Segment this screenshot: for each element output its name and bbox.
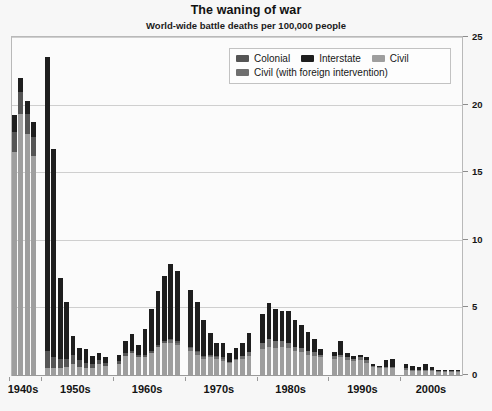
bar-segment-interstate — [312, 339, 317, 353]
y-tick-mark — [463, 104, 468, 105]
bar-1963 — [136, 345, 141, 375]
bar-1959 — [103, 357, 108, 375]
bar-1952 — [58, 278, 63, 375]
bar-1949 — [31, 122, 36, 375]
y-tick-mark — [463, 36, 468, 37]
bar-1967 — [162, 276, 167, 375]
bar-2002 — [417, 367, 422, 375]
legend-row: ColonialInterstateCivil — [236, 53, 444, 64]
bar-1957 — [90, 356, 95, 375]
bar-segment-interstate — [123, 341, 128, 353]
bar-segment-civil — [175, 345, 180, 375]
bar-1955 — [77, 348, 82, 375]
bar-segment-civil — [306, 355, 311, 375]
bar-segment-civil — [156, 347, 161, 375]
y-axis: 0510152025 — [463, 36, 492, 376]
bar-segment-interstate — [168, 264, 173, 338]
bar-segment-interstate — [247, 333, 252, 352]
bar-1978 — [240, 343, 245, 375]
bar-1961 — [123, 341, 128, 375]
y-tick-mark — [463, 374, 468, 375]
bar-segment-civil — [143, 357, 148, 375]
bar-segment-interstate — [31, 122, 36, 137]
bar-segment-colonial — [51, 357, 56, 368]
bar-1964 — [143, 329, 148, 375]
y-tick-label: 10 — [472, 234, 483, 245]
bar-segment-interstate — [208, 333, 213, 355]
bar-1993 — [351, 356, 356, 375]
y-tick-label: 5 — [472, 301, 477, 312]
bar-segment-interstate — [143, 329, 148, 355]
bar-segment-interstate — [64, 302, 69, 359]
chart-subtitle: World-wide battle deaths per 100,000 peo… — [0, 20, 492, 31]
bar-segment-civil_foreign — [260, 343, 265, 350]
bar-1966 — [156, 291, 161, 375]
bar-2003 — [423, 364, 428, 375]
bar-segment-civil — [286, 348, 291, 375]
bar-segment-civil — [234, 360, 239, 375]
x-tick-label: 1970s — [204, 383, 235, 395]
bar-1986 — [299, 325, 304, 375]
bar-1984 — [286, 311, 291, 375]
bar-segment-civil — [90, 368, 95, 375]
bar-segment-civil — [332, 359, 337, 375]
bar-1979 — [247, 333, 252, 375]
y-tick-label: 20 — [472, 99, 483, 110]
x-tick-label: 2000s — [416, 383, 447, 395]
bar-1968 — [168, 264, 173, 375]
bar-segment-civil — [456, 372, 461, 375]
bar-segment-interstate — [227, 353, 232, 361]
bar-segment-civil — [136, 357, 141, 375]
legend-row: Civil (with foreign intervention) — [236, 67, 444, 78]
bar-segment-interstate — [234, 348, 239, 359]
bar-segment-interstate — [221, 343, 226, 358]
bar-segment-civil — [358, 360, 363, 375]
bar-segment-civil — [208, 357, 213, 375]
bar-segment-interstate — [90, 356, 95, 364]
legend-item-colonial[interactable]: Colonial — [236, 53, 290, 64]
bar-1946 — [12, 115, 17, 375]
chart-screenshot: The waning of war World-wide battle deat… — [0, 0, 492, 411]
bar-segment-interstate — [136, 345, 141, 354]
bar-2008 — [456, 370, 461, 375]
bar-1999 — [390, 359, 395, 375]
bar-1983 — [280, 311, 285, 375]
bar-segment-interstate — [273, 309, 278, 341]
legend-item-civil[interactable]: Civil — [372, 53, 409, 64]
bar-segment-civil — [240, 359, 245, 375]
bar-segment-colonial — [12, 132, 17, 152]
x-tick-mark — [113, 377, 114, 381]
bar-segment-interstate — [214, 343, 219, 357]
bar-1970 — [188, 290, 193, 375]
bar-segment-interstate — [12, 115, 17, 131]
bar-1972 — [201, 320, 206, 375]
legend-item-interstate[interactable]: Interstate — [301, 53, 361, 64]
bar-segment-interstate — [71, 336, 76, 355]
bar-segment-civil — [364, 363, 369, 375]
bar-1988 — [312, 339, 317, 376]
bar-segment-interstate — [299, 325, 304, 348]
bar-1991 — [338, 341, 343, 375]
y-tick-label: 25 — [472, 31, 483, 42]
bar-segment-civil — [293, 351, 298, 375]
chart-legend: ColonialInterstateCivilCivil (with forei… — [229, 48, 451, 84]
bar-segment-civil — [117, 364, 122, 375]
bar-segment-colonial — [77, 360, 82, 367]
x-axis: 1940s1950s1960s1970s1980s1990s2000s — [11, 377, 463, 407]
bar-1975 — [221, 343, 226, 375]
bar-segment-colonial — [18, 92, 23, 114]
bar-1960 — [117, 355, 122, 375]
x-tick-mark — [9, 377, 10, 381]
bar-1969 — [175, 271, 180, 375]
legend-item-civil_foreign[interactable]: Civil (with foreign intervention) — [236, 67, 388, 78]
bar-segment-colonial — [64, 359, 69, 367]
bar-segment-civil — [260, 349, 265, 375]
bar-1998 — [384, 360, 389, 375]
bar-1947 — [18, 78, 23, 375]
x-tick-label: 1990s — [347, 383, 378, 395]
bar-segment-interstate — [51, 149, 56, 357]
bar-segment-civil — [58, 368, 63, 375]
bar-segment-interstate — [384, 360, 389, 367]
bar-segment-civil — [417, 371, 422, 375]
bar-segment-civil — [449, 372, 454, 375]
